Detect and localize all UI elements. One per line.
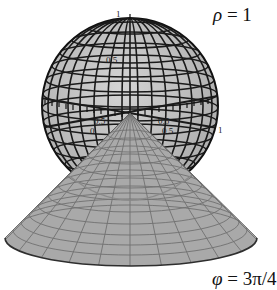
rho-value: 1: [242, 4, 252, 25]
phi-symbol: φ: [212, 268, 223, 289]
cone-equation-label: φ = 3π/4: [212, 268, 277, 290]
sphere-equation-label: ρ = 1: [213, 4, 252, 26]
equals-sign: =: [223, 268, 243, 289]
tick-x-left-lower: 0: [90, 126, 95, 136]
tick-y-right: 0.5: [158, 116, 170, 126]
tick-right-end: 1: [218, 125, 223, 135]
phi-value: 3π/4: [243, 268, 277, 289]
tick-y-right-lower: 0.5: [162, 126, 174, 136]
cone-surface: [5, 113, 257, 268]
equals-sign: =: [222, 4, 242, 25]
tick-z-mid: 0.5: [106, 55, 118, 65]
tick-z-top: 1: [116, 9, 121, 19]
rho-symbol: ρ: [213, 4, 222, 25]
tick-x-left: 0.5: [94, 116, 106, 126]
